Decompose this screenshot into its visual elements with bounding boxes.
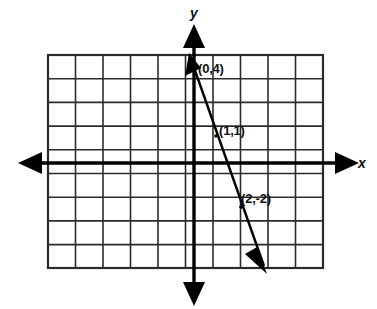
x-axis-arrow-left-icon — [18, 152, 42, 174]
point-label-b: (1,1) — [219, 123, 245, 138]
coordinate-plane-figure: x y (0,4) (1,1) (2,-2) — [0, 0, 377, 309]
graph-svg: x y (0,4) (1,1) (2,-2) — [0, 0, 377, 309]
y-axis-label: y — [189, 5, 199, 21]
point-label-c: (2,-2) — [241, 191, 271, 206]
x-axis-arrow-right-icon — [335, 152, 359, 174]
y-axis-arrow-up-icon — [183, 24, 205, 48]
y-axis-arrow-down-icon — [183, 282, 205, 306]
plotted-line-arrow-bottom-icon — [245, 247, 267, 274]
point-label-a: (0,4) — [198, 61, 224, 76]
x-axis-label: x — [357, 155, 367, 171]
point-marker-b — [214, 134, 218, 138]
